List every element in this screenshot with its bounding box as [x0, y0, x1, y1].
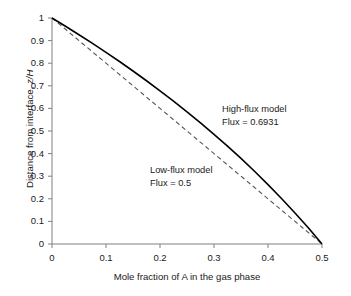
- y-tick-label: 0.9: [0, 36, 44, 46]
- chart-figure: 00.10.20.30.40.50.60.70.80.91 00.10.20.3…: [0, 0, 351, 296]
- y-axis-title: Distance from interface, z/H: [25, 29, 35, 229]
- y-tick-label: 0: [0, 239, 44, 249]
- series-line-high-flux: [52, 18, 322, 244]
- x-tick-label: 0: [32, 253, 72, 263]
- y-tick-label: 0.6: [0, 103, 44, 113]
- y-axis-ticks: [48, 18, 52, 244]
- annotation-high-flux-line2: Flux = 0.6931: [222, 116, 287, 129]
- x-tick-label: 0.3: [194, 253, 234, 263]
- y-tick-label: 0.3: [0, 171, 44, 181]
- y-tick-label: 0.8: [0, 58, 44, 68]
- y-tick-label: 0.4: [0, 149, 44, 159]
- x-tick-label: 0.4: [248, 253, 288, 263]
- y-tick-label: 1: [0, 13, 44, 23]
- x-tick-label: 0.1: [86, 253, 126, 263]
- y-tick-label: 0.1: [0, 216, 44, 226]
- annotation-high-flux: High-flux model Flux = 0.6931: [222, 103, 287, 128]
- series-line-low-flux: [52, 18, 322, 244]
- axis-lines: [52, 18, 322, 244]
- y-tick-label: 0.2: [0, 194, 44, 204]
- annotation-low-flux: Low-flux model Flux = 0.5: [150, 164, 213, 189]
- annotation-high-flux-line1: High-flux model: [222, 103, 287, 116]
- x-axis-ticks: [52, 244, 322, 248]
- x-tick-label: 0.5: [302, 253, 342, 263]
- annotation-low-flux-line2: Flux = 0.5: [150, 177, 213, 190]
- y-tick-label: 0.5: [0, 126, 44, 136]
- annotation-low-flux-line1: Low-flux model: [150, 164, 213, 177]
- x-axis-title: Mole fraction of A in the gas phase: [52, 272, 322, 282]
- y-axis-title-symbol: z/H: [24, 70, 35, 84]
- x-tick-label: 0.2: [140, 253, 180, 263]
- data-series-group: [52, 18, 322, 244]
- y-tick-label: 0.7: [0, 81, 44, 91]
